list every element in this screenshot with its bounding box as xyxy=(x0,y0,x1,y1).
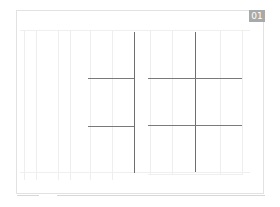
divider-horizontal-lower-left xyxy=(88,126,134,127)
faint-row-line xyxy=(148,174,242,175)
faint-column-line xyxy=(70,30,71,180)
divider-horizontal-upper-right xyxy=(148,78,242,79)
faint-column-line xyxy=(112,30,113,180)
bottom-rule-right xyxy=(57,195,265,196)
page-number-badge: 01 xyxy=(249,10,265,22)
bottom-rule-left xyxy=(17,195,39,196)
faint-row-line xyxy=(20,30,250,31)
divider-horizontal-upper-left xyxy=(88,78,134,79)
divider-vertical-right xyxy=(195,32,196,172)
faint-column-line xyxy=(172,30,173,175)
page-frame xyxy=(16,10,264,194)
divider-horizontal-lower-right xyxy=(148,125,242,126)
faint-column-line xyxy=(150,30,151,175)
faint-column-line xyxy=(24,30,25,180)
faint-column-line xyxy=(90,30,91,180)
faint-row-line xyxy=(20,172,250,173)
faint-column-line xyxy=(36,30,37,180)
faint-column-line xyxy=(242,30,243,175)
faint-column-line xyxy=(220,30,221,175)
faint-column-line xyxy=(58,30,59,180)
divider-vertical-left xyxy=(134,32,135,173)
